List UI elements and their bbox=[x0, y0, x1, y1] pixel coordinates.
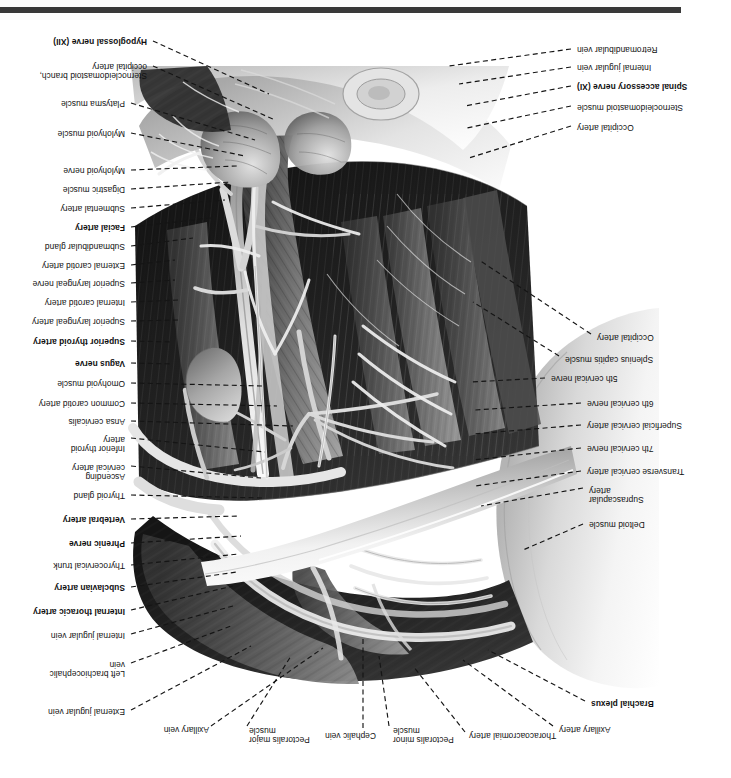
anatomy-label: Retromandibular vein bbox=[577, 45, 691, 54]
anatomy-label: Suprascapular artery bbox=[589, 485, 671, 504]
anatomy-label: Transverse cervical artery bbox=[587, 467, 703, 476]
anatomy-label: Common carotid artery bbox=[9, 399, 125, 408]
anatomy-label: Splenius capitis muscle bbox=[565, 355, 683, 364]
anatomy-label: Brachial plexus bbox=[591, 699, 683, 708]
anatomy-label: Sternocleidomastoid muscle bbox=[577, 103, 705, 112]
anatomy-label: Pectoralis major muscle bbox=[249, 725, 335, 744]
anatomy-label: Left brachiocephalic vein bbox=[21, 659, 125, 678]
anatomy-label: Digastric muscle bbox=[31, 185, 125, 194]
anatomy-label: Internal jugular vein bbox=[577, 63, 673, 72]
anatomy-label: External carotid artery bbox=[13, 261, 125, 270]
leader-line bbox=[449, 49, 571, 66]
anatomy-label: Subclavian artery bbox=[23, 583, 125, 592]
anatomy-label: Superior thyroid artery bbox=[9, 337, 125, 346]
anatomy-label: Hypoglossal nerve (XII) bbox=[21, 37, 147, 46]
anatomy-label: Submental artery bbox=[25, 204, 125, 213]
anatomy-label: Superior laryngeal artery bbox=[7, 317, 125, 326]
anatomical-illustration bbox=[119, 66, 659, 746]
anatomy-label: Mylohyoid muscle bbox=[23, 129, 125, 138]
anatomy-label: Occipital artery bbox=[577, 123, 669, 132]
anatomy-plate: Brachial plexusAxillary arteryThoracoacr… bbox=[0, 0, 731, 778]
anatomy-label: Internal carotid artery bbox=[19, 298, 125, 307]
anatomy-label: Superior laryngeal nerve bbox=[7, 279, 125, 288]
anatomy-label: Thyroid gland bbox=[37, 491, 125, 500]
anatomy-label: Thoracoacromial artery bbox=[469, 731, 591, 740]
anatomy-label: Occipital artery bbox=[597, 333, 689, 342]
anatomy-label: Phrenic nerve bbox=[35, 539, 125, 548]
anatomy-label: 5th cervical nerve bbox=[551, 374, 639, 383]
footer-rule bbox=[0, 7, 681, 13]
anatomy-label: 7th cervical nerve bbox=[587, 444, 675, 453]
anatomy-label: Vagus nerve bbox=[41, 359, 125, 368]
anatomy-label: Omohyoid muscle bbox=[23, 379, 125, 388]
anatomy-label: Thyrocervical trunk bbox=[23, 561, 125, 570]
anatomy-label: Facial artery bbox=[43, 223, 125, 232]
anatomy-label: Vertebral artery bbox=[31, 515, 125, 524]
anatomy-label: Cephalic vein bbox=[325, 731, 401, 740]
anatomy-label: Submandibular gland bbox=[9, 242, 125, 251]
anatomy-label: Mylohyoid nerve bbox=[27, 166, 125, 175]
anatomy-label: Ansa cervicalis bbox=[35, 417, 125, 426]
anatomy-label: Ascending cervical artery bbox=[33, 462, 125, 481]
anatomy-label: Internal thoracic artery bbox=[13, 607, 125, 616]
anatomy-label: Sternocleidomastoid branch, occipital ar… bbox=[11, 61, 147, 80]
anatomy-label: Internal jugular vein bbox=[23, 631, 125, 640]
anatomy-label: Pectoralis minor muscle bbox=[393, 725, 469, 744]
anatomy-label: External jugular vein bbox=[15, 707, 125, 716]
anatomy-label: Superficial cervical artery bbox=[587, 421, 699, 430]
anatomy-label: 6th cervical nerve bbox=[587, 399, 675, 408]
anatomy-label: Inferior thyroid artery bbox=[37, 434, 125, 453]
anatomy-label: Platysma muscle bbox=[27, 99, 125, 108]
anatomy-label: Deltoid muscle bbox=[589, 520, 675, 529]
anatomy-label: Spinal accessory nerve (XI) bbox=[577, 82, 699, 91]
anatomy-label: Axillary vein bbox=[131, 725, 209, 734]
